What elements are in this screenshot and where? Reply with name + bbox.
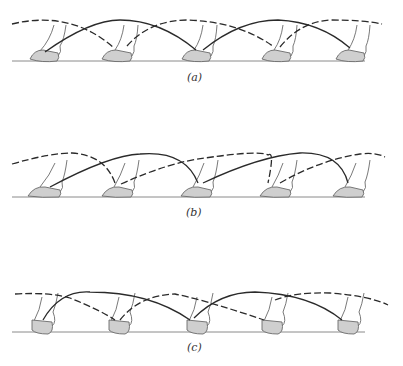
hind-hoof-path xyxy=(280,20,382,47)
hoof-icon xyxy=(28,160,67,197)
hoof-icon xyxy=(102,25,138,62)
hoof-icon xyxy=(187,293,213,334)
hoof-icon xyxy=(262,25,297,62)
fore-hoof-path xyxy=(43,292,190,320)
hoof-icon xyxy=(338,293,364,334)
panel-b: (b) xyxy=(12,153,385,219)
hoof-icon xyxy=(260,160,297,197)
hind-hoof-path xyxy=(275,293,388,305)
fore-hoof-path xyxy=(45,20,196,52)
fore-hoof-path xyxy=(203,153,348,183)
gait-diagram: (a) (b) xyxy=(0,0,403,366)
hoof-icon xyxy=(336,25,370,62)
hoof-icon xyxy=(262,293,288,334)
fore-hoof-path xyxy=(194,292,342,320)
panel-a: (a) xyxy=(12,20,382,84)
panel-label: (c) xyxy=(187,341,202,354)
panel-label: (b) xyxy=(186,206,202,219)
hoof-icon xyxy=(109,293,135,334)
hoof-icon xyxy=(32,293,58,334)
panel-c: (c) xyxy=(12,292,388,354)
hoof-icon xyxy=(30,25,66,62)
panel-label: (a) xyxy=(187,71,202,84)
